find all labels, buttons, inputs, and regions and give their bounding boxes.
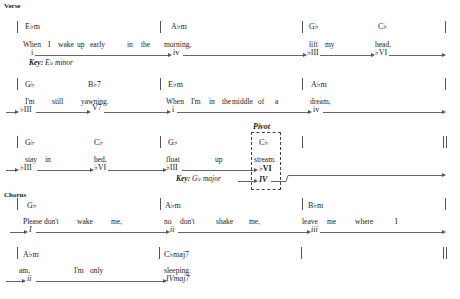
progression-line: [238, 181, 255, 182]
chord: A♭m: [23, 250, 39, 259]
barline: [445, 21, 446, 33]
progression-line: [177, 112, 309, 113]
arrow-icon: [24, 230, 28, 234]
progression-line: [108, 170, 164, 171]
progression-line: [320, 55, 372, 56]
lyric: I'm: [191, 97, 201, 106]
lyric: still: [52, 97, 63, 106]
lyric: don't: [180, 217, 195, 226]
lyric: where: [355, 217, 373, 226]
roman-numeral: ♭III: [20, 163, 32, 172]
barline: [445, 78, 446, 90]
barline: [301, 247, 302, 259]
lyric: early: [90, 40, 105, 49]
lyric: in: [209, 97, 215, 106]
arrow-icon: [254, 168, 258, 172]
progression-line: [178, 232, 308, 233]
roman-numeral: I: [29, 225, 32, 234]
arrow-icon: [168, 53, 172, 57]
progression-line: [182, 170, 255, 171]
lyric: the: [222, 97, 231, 106]
lyric: me,: [249, 217, 260, 226]
progression-line: [290, 175, 443, 176]
arrow-icon: [254, 179, 258, 183]
barline: [17, 198, 18, 210]
barline: [17, 136, 18, 148]
progression-line: [183, 55, 304, 56]
arrow-icon: [87, 110, 91, 114]
double-barline: [443, 247, 447, 259]
arrow-icon: [442, 173, 446, 177]
barline: [160, 21, 161, 33]
roman-numeral: iii: [311, 225, 318, 234]
lyric: in: [45, 155, 51, 164]
key-label-eb-minor: Key: E♭ minor: [29, 58, 73, 67]
barline: [159, 247, 160, 259]
roman-numeral: IVmaj7: [166, 274, 190, 283]
arrow-icon: [308, 110, 312, 114]
barline: [17, 247, 18, 259]
roman-numeral-pivot-old-key: ♭VI: [259, 163, 272, 173]
lyric: I: [48, 40, 51, 49]
lyric: wake: [58, 40, 74, 49]
lyric: up: [215, 155, 223, 164]
chord: A♭m: [171, 22, 187, 31]
chord: G♭: [27, 201, 37, 210]
lyric: only: [90, 266, 103, 275]
progression-line: [323, 112, 444, 113]
lyric: shake: [216, 217, 233, 226]
lyric: Please: [23, 217, 42, 226]
barline: [302, 136, 303, 148]
roman-numeral-pivot-new-key: IV: [259, 175, 267, 184]
roman-numeral: i: [31, 48, 33, 57]
chord: B♭m: [308, 201, 323, 210]
barline: [302, 21, 303, 33]
arrow-icon: [442, 110, 446, 114]
progression-line: [389, 55, 443, 56]
progression-line: [320, 232, 443, 233]
arrow-icon: [22, 279, 26, 283]
roman-numeral: ♭III: [166, 163, 178, 172]
lyric: I'm: [74, 266, 84, 275]
chord: C♭maj7: [164, 250, 189, 259]
lyric: me,: [111, 217, 122, 226]
chord: G♭: [309, 22, 319, 31]
chord: B♭7: [88, 80, 101, 89]
roman-numeral: ♭III: [307, 48, 319, 57]
arrow-icon: [15, 168, 19, 172]
chord: E♭m: [168, 80, 183, 89]
lyric: I: [395, 217, 398, 226]
progression-line: [10, 232, 25, 233]
barline: [302, 198, 303, 210]
lyric: a: [275, 97, 278, 106]
progression-line: [36, 232, 167, 233]
lyric: my: [325, 40, 335, 49]
chord: G♭: [25, 138, 35, 147]
lyric: don't: [44, 217, 59, 226]
roman-numeral: ii: [27, 274, 31, 283]
roman-numeral: i: [172, 105, 174, 114]
roman-numeral: ♭VI: [375, 48, 387, 57]
barline: [160, 78, 161, 90]
arrow-icon: [167, 110, 171, 114]
section-label-verse: Verse: [4, 2, 20, 10]
chord: E♭m: [25, 22, 40, 31]
chord: C♭: [259, 138, 268, 147]
step-connector-icon: [284, 175, 290, 182]
barline: [160, 136, 161, 148]
progression-line: [37, 170, 91, 171]
chord: A♭m: [311, 80, 327, 89]
barline: [17, 21, 18, 33]
chord: G♭: [168, 138, 178, 147]
lyric: me: [327, 217, 336, 226]
barline: [445, 198, 446, 210]
arrow-icon: [442, 53, 446, 57]
lyric: of: [258, 97, 264, 106]
roman-numeral: ♭VI: [94, 163, 106, 172]
roman-numeral: ii: [170, 225, 174, 234]
progression-line: [36, 281, 164, 282]
chord: A♭m: [165, 201, 181, 210]
key-label-gb-major: Key: G♭ major: [176, 174, 221, 183]
progression-line: [36, 112, 88, 113]
barline: [302, 78, 303, 90]
